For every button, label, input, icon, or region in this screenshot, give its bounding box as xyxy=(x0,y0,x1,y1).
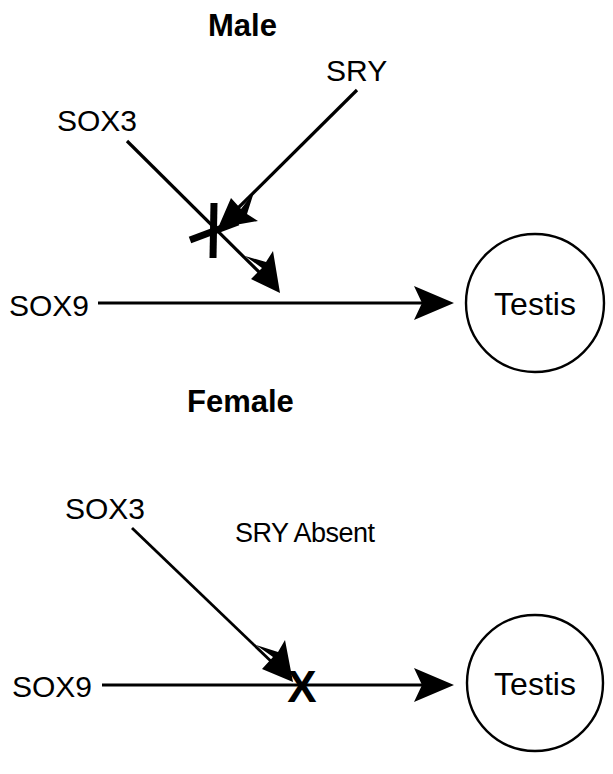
female-edge-sox3-shaft xyxy=(132,528,277,667)
male-edge-sox3-arrowhead xyxy=(245,251,280,293)
female-panel-title: Female xyxy=(187,384,294,419)
male-node-label-sry: SRY xyxy=(326,54,387,87)
male-node-label-sox3: SOX3 xyxy=(57,104,137,137)
diagram-canvas: Male SOX3 SRY SOX9 Testis xyxy=(0,0,613,774)
male-edge-sry-shaft xyxy=(235,90,357,211)
female-sry-status-label: SRY Absent xyxy=(235,518,376,548)
male-panel-title: Male xyxy=(208,8,277,43)
female-panel: Female SOX3 SRY Absent SOX9 X Testis xyxy=(12,384,603,751)
female-node-label-sox3: SOX3 xyxy=(65,492,145,525)
male-panel: Male SOX3 SRY SOX9 Testis xyxy=(9,8,604,372)
female-block-x-mark: X xyxy=(287,662,316,711)
male-outcome-label: Testis xyxy=(494,286,576,322)
male-inhibition-bar-vertical xyxy=(213,203,214,258)
female-node-label-sox9: SOX9 xyxy=(12,670,92,703)
female-outcome-label: Testis xyxy=(494,666,576,702)
male-node-label-sox9: SOX9 xyxy=(9,289,89,322)
diagram-root: Male SOX3 SRY SOX9 Testis xyxy=(0,0,613,774)
